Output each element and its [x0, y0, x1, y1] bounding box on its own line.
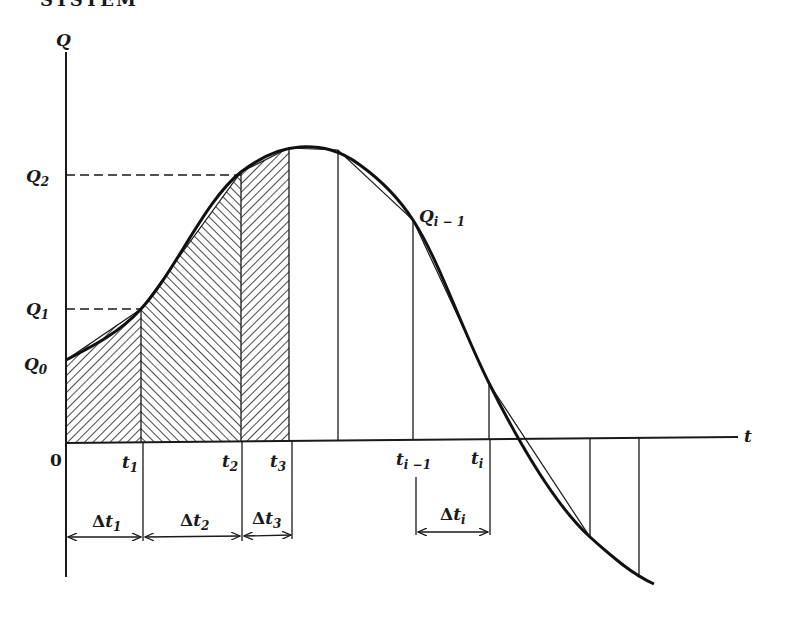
t1-label: t1 [122, 452, 138, 475]
q0-label: Q0 [24, 354, 48, 377]
q1-label: Q1 [26, 299, 49, 322]
delta-t2-label: Δt2 [180, 510, 209, 533]
trapezoidal-integration-diagram: SYSTEM Q t 0 Q0 Q1 Q2 Qi − 1 t1 t2 t3 ti… [0, 0, 785, 618]
page-heading: SYSTEM [40, 0, 138, 10]
t-axis-label: t [744, 426, 752, 446]
ti-label: ti [471, 448, 484, 471]
t3-label: t3 [270, 451, 286, 474]
trapezoid-3-hatched [241, 148, 289, 442]
trapezoid-1-hatched [66, 309, 141, 443]
qi-1-label: Qi − 1 [419, 206, 465, 229]
delta-t1-label: Δt1 [92, 511, 121, 534]
origin-label: 0 [50, 450, 62, 470]
ti-1-label: ti −1 [396, 449, 431, 472]
delta-ti-label: Δti [440, 504, 466, 527]
delta-t3-label: Δt3 [252, 508, 281, 531]
t2-label: t2 [222, 451, 238, 474]
trapezoid-2-hatched [141, 172, 241, 443]
delta-t2-arrow [145, 536, 240, 537]
delta-t3-arrow [244, 535, 291, 536]
q2-label: Q2 [26, 166, 49, 189]
q-axis-label: Q [56, 30, 71, 50]
